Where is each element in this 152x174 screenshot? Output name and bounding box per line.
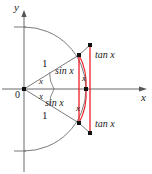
tan-label-lower: tan x (95, 119, 115, 129)
arc-label-lower: x (76, 104, 80, 113)
y-axis-label: y (14, 2, 19, 13)
x-axis-label: x (141, 92, 146, 103)
tan-label-upper: tan x (95, 50, 115, 60)
sin-label-lower: sin x (45, 98, 64, 108)
origin-label: 0 (15, 90, 20, 100)
arc-label-upper: x (82, 74, 86, 83)
radius-label-upper: 1 (42, 58, 48, 69)
figure-canvas (0, 0, 152, 174)
angle-label-lower: x (39, 92, 43, 101)
angle-label-upper: x (39, 77, 43, 86)
sin-label-upper: sin x (55, 66, 74, 76)
radius-label-lower: 1 (42, 110, 48, 121)
math-figure: y x 0 1 1 x x sin x sin x x x tan x tan … (0, 0, 152, 174)
